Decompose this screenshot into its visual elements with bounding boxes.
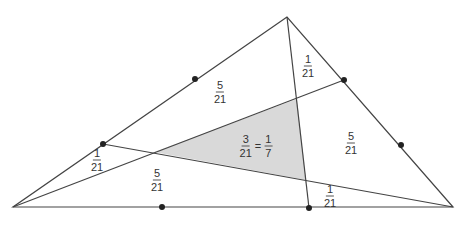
numerator: 1 [304, 54, 312, 67]
center-area-label: 321 = 17 [240, 134, 273, 159]
label-lower-left: 521 [151, 168, 163, 193]
triangle-diagram [0, 0, 456, 229]
numerator: 5 [216, 80, 224, 93]
label-left-sliver: 121 [91, 148, 103, 173]
dot-base-right [306, 205, 312, 211]
dot-base-left [159, 204, 165, 210]
denominator: 21 [151, 181, 163, 193]
label-right: 521 [345, 131, 357, 156]
numerator: 5 [153, 168, 161, 181]
dot-right-side-lower [398, 142, 404, 148]
denominator: 21 [302, 67, 314, 79]
label-top-sliver: 121 [302, 54, 314, 79]
denominator: 21 [214, 93, 226, 105]
equals-sign: = [255, 141, 261, 152]
numerator: 5 [347, 131, 355, 144]
numerator: 1 [326, 184, 334, 197]
dot-left-side-upper [192, 76, 198, 82]
denominator: 21 [91, 161, 103, 173]
denominator: 21 [345, 144, 357, 156]
dot-left-side-lower [100, 141, 106, 147]
denominator: 21 [240, 147, 252, 159]
numerator: 1 [264, 134, 272, 147]
outer-triangle [13, 17, 453, 207]
denominator: 21 [324, 197, 336, 209]
label-upper-left: 521 [214, 80, 226, 105]
numerator: 1 [93, 148, 101, 161]
denominator: 7 [265, 147, 271, 159]
numerator: 3 [242, 134, 250, 147]
dot-right-side-upper [341, 77, 347, 83]
shaded-center-triangle [154, 99, 306, 180]
label-bottom-sliver: 121 [324, 184, 336, 209]
